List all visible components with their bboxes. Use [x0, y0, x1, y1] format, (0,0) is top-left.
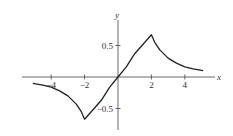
- x-tick-label: 2: [149, 80, 154, 90]
- x-tick-label: −2: [80, 80, 90, 90]
- function-plot: x y −4−224 0.5−0.5: [0, 0, 233, 136]
- y-tick-label: 0.5: [102, 41, 114, 51]
- x-tick-label: 4: [183, 80, 188, 90]
- y-axis-label: y: [114, 10, 119, 20]
- y-tick-label: −0.5: [97, 104, 114, 114]
- x-axis-label: x: [216, 72, 221, 82]
- axes: x y: [22, 10, 221, 130]
